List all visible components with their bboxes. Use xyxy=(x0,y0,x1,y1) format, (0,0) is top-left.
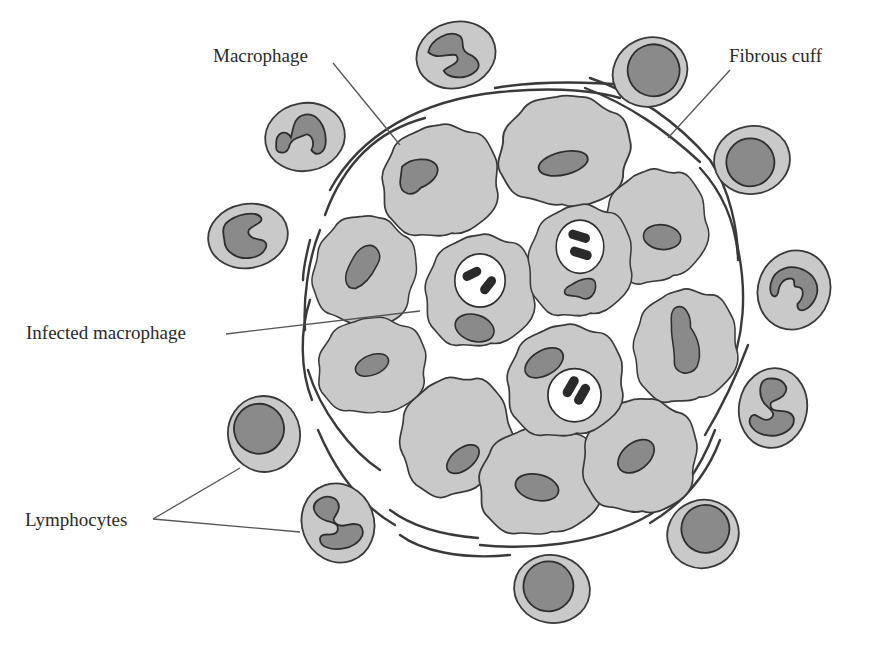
label-lymphocytes: Lymphocytes xyxy=(25,510,127,529)
label-fibrous-cuff: Fibrous cuff xyxy=(729,46,822,65)
label-infected-macrophage: Infected macrophage xyxy=(26,323,186,342)
label-macrophage: Macrophage xyxy=(213,46,308,65)
